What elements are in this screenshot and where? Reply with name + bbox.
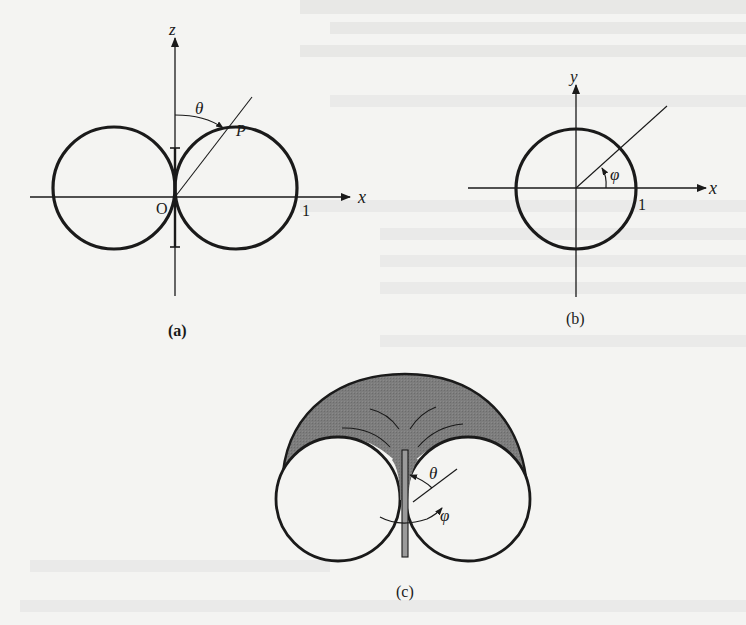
x-axis-label: x — [708, 178, 717, 198]
caption-c: (c) — [396, 583, 414, 601]
right-lobe — [406, 437, 530, 561]
z-axis-label: z — [168, 20, 176, 39]
phi-label: φ — [440, 506, 449, 525]
point-p-label: P — [235, 122, 246, 139]
y-axis-label: y — [568, 67, 578, 86]
figures-canvas: z x O 1 θ P (a) y x 1 φ (b) — [0, 0, 746, 625]
left-lobe — [276, 437, 400, 561]
radial-line-op — [175, 97, 252, 197]
caption-a: (a) — [168, 322, 187, 340]
figure-b: y x 1 φ (b) — [468, 67, 717, 328]
antenna-rod — [402, 450, 408, 557]
radial-line — [576, 106, 667, 188]
figure-c: θ φ (c) — [276, 374, 530, 601]
textbook-page: z x O 1 θ P (a) y x 1 φ (b) — [0, 0, 746, 625]
unit-label: 1 — [638, 196, 646, 213]
left-lobe — [53, 127, 175, 249]
origin-label: O — [156, 200, 168, 217]
x-axis-label: x — [357, 187, 366, 207]
right-lobe — [175, 127, 297, 249]
unit-label: 1 — [302, 202, 310, 219]
caption-b: (b) — [566, 310, 585, 328]
theta-label: θ — [429, 464, 437, 483]
figure-a: z x O 1 θ P (a) — [30, 20, 366, 340]
phi-label: φ — [610, 165, 619, 184]
phi-arc — [602, 168, 606, 188]
theta-label: θ — [195, 99, 203, 118]
